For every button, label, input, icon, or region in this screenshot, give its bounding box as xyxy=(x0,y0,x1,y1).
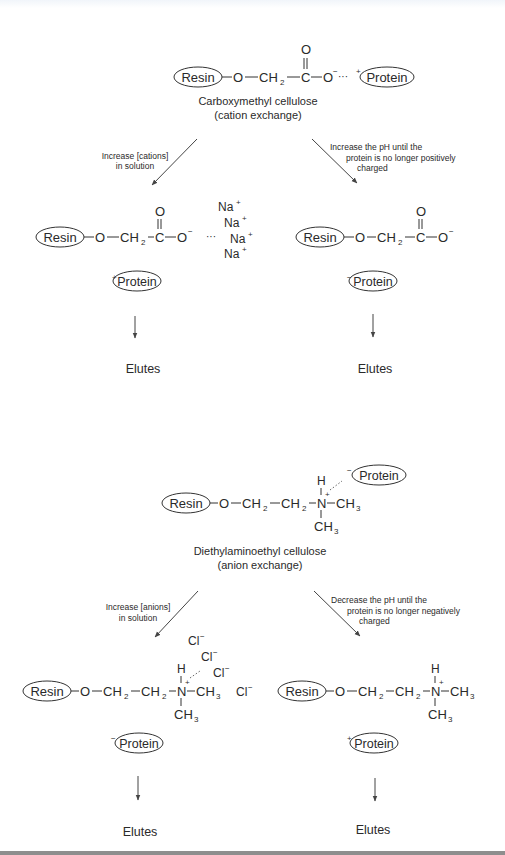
ph-step-label-2: protein is no longer positively xyxy=(346,153,456,163)
resin-label: Resin xyxy=(303,230,336,245)
elutes-label: Elutes xyxy=(358,362,393,376)
protein-label: Protein xyxy=(366,70,407,85)
cm-right-product: Resin O CH 2 C O O − − Protein Elutes xyxy=(296,204,454,376)
cl-ion: Cl xyxy=(236,685,247,699)
subscript-3: 3 xyxy=(216,692,221,701)
cm-cellulose-subtitle: (cation exchange) xyxy=(214,109,301,121)
cl-ion: Cl xyxy=(188,634,199,648)
atom-ch: CH xyxy=(259,70,278,85)
atom-o-carbonyl: O xyxy=(155,204,165,219)
atom-ch: CH xyxy=(281,496,300,511)
atom-o: O xyxy=(80,684,90,699)
arrow-down-left xyxy=(152,139,197,185)
atom-o: O xyxy=(95,230,105,245)
ion-exchange-diagram: Resin O CH 2 C O O − ··· + Protein Carbo… xyxy=(0,0,505,855)
charge-plus: + xyxy=(185,678,190,687)
resin-label: Resin xyxy=(30,684,63,699)
atom-h: H xyxy=(431,662,440,676)
atom-o: O xyxy=(355,230,365,245)
subscript-2: 2 xyxy=(263,504,268,513)
protein-label: Protein xyxy=(359,469,399,483)
cation-step-label: Increase [cations] xyxy=(102,151,169,161)
elutes-label: Elutes xyxy=(356,823,391,837)
subscript-2: 2 xyxy=(162,692,167,701)
resin-label: Resin xyxy=(43,230,76,245)
atom-ch: CH xyxy=(314,519,333,534)
elutes-label: Elutes xyxy=(123,825,158,839)
ph-step-label-3: charged xyxy=(359,616,390,626)
atom-ch: CH xyxy=(395,684,414,699)
subscript-2: 2 xyxy=(302,504,307,513)
ionic-interaction-dots xyxy=(330,481,342,490)
atom-ch: CH xyxy=(377,230,396,245)
atom-ch: CH xyxy=(196,684,215,699)
subscript-3: 3 xyxy=(194,715,199,724)
cl-ion: Cl xyxy=(213,666,224,680)
protein-label: Protein xyxy=(119,737,159,751)
atom-o-carbonyl: O xyxy=(301,42,311,57)
subscript-3: 3 xyxy=(356,504,361,513)
na-ion: Na xyxy=(218,200,234,214)
atom-ch: CH xyxy=(141,684,160,699)
protein-charge: + xyxy=(347,734,352,743)
charge-minus: − xyxy=(188,227,193,236)
subscript-2: 2 xyxy=(379,692,384,701)
ph-step-label: Increase the pH until the xyxy=(330,142,422,152)
protein-charge: − xyxy=(347,466,352,475)
charge-plus: + xyxy=(439,678,444,687)
atom-ch: CH xyxy=(358,684,377,699)
cm-left-product: Resin O CH 2 C O O − ··· Na + Na + Na + … xyxy=(36,198,253,376)
atom-ch: CH xyxy=(336,496,355,511)
ion-charge: + xyxy=(248,230,253,239)
na-ion: Na xyxy=(224,247,240,261)
atom-ch: CH xyxy=(242,496,261,511)
atom-o: O xyxy=(438,230,448,245)
ion-charge: + xyxy=(242,245,247,254)
ion-charge: − xyxy=(225,664,230,673)
subscript-3: 3 xyxy=(470,692,475,701)
deae-cellulose-structure: Resin O CH 2 CH 2 N H + CH 3 CH 3 − Prot… xyxy=(162,465,406,571)
ph-step-label: Decrease the pH until the xyxy=(331,595,427,605)
subscript-2: 2 xyxy=(416,692,421,701)
atom-o-carbonyl: O xyxy=(416,204,426,219)
na-ion: Na xyxy=(224,216,240,230)
anion-step-label: Increase [anions] xyxy=(106,602,171,612)
cm-cellulose-title: Carboxymethyl cellulose xyxy=(198,95,317,107)
atom-ch: CH xyxy=(428,707,447,722)
elutes-label: Elutes xyxy=(126,362,161,376)
atom-ch: CH xyxy=(103,684,122,699)
ph-step-label-2: protein is no longer negatively xyxy=(347,606,461,616)
sodium-ions: Na + Na + Na + Na + xyxy=(218,198,253,261)
atom-c: C xyxy=(416,230,425,245)
deae-cellulose-title: Diethylaminoethyl cellulose xyxy=(194,545,327,557)
protein-label: Protein xyxy=(354,737,394,751)
charge-minus: − xyxy=(449,227,454,236)
atom-o: O xyxy=(335,684,345,699)
charge-plus: + xyxy=(325,490,330,499)
subscript-2: 2 xyxy=(280,78,285,87)
na-ion: Na xyxy=(230,232,246,246)
atom-ch: CH xyxy=(450,684,469,699)
subscript-3: 3 xyxy=(448,715,453,724)
deae-left-product: Resin O CH 2 CH 2 N H + CH 3 CH 3 Cl − C… xyxy=(23,632,253,839)
atom-o: O xyxy=(177,230,187,245)
resin-label: Resin xyxy=(181,70,214,85)
subscript-2: 2 xyxy=(398,238,403,247)
atom-o: O xyxy=(219,496,229,511)
ph-step-label-3: charged xyxy=(357,163,388,173)
atom-h: H xyxy=(317,474,326,488)
protein-label: Protein xyxy=(117,275,157,289)
anion-step-label-2: in solution xyxy=(119,613,158,623)
atom-ch: CH xyxy=(120,230,139,245)
ion-charge: − xyxy=(213,648,218,657)
subscript-2: 2 xyxy=(141,238,146,247)
resin-label: Resin xyxy=(285,684,318,699)
subscript-2: 2 xyxy=(124,692,129,701)
cl-ion: Cl xyxy=(201,650,212,664)
ion-charge: + xyxy=(242,214,247,223)
atom-c: C xyxy=(155,230,164,245)
atom-o: O xyxy=(233,70,243,85)
subscript-3: 3 xyxy=(334,527,339,536)
cation-step-label-2: in solution xyxy=(116,161,155,171)
arrow-down-left xyxy=(155,591,198,637)
